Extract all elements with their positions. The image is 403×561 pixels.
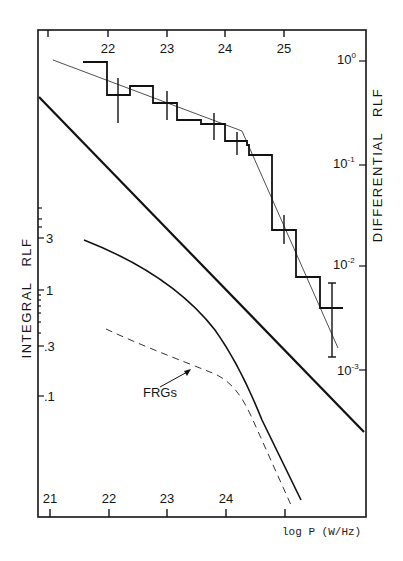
bottom-tick-23: 23 [160,491,174,506]
left-tick-0.3: .3 [44,339,55,354]
plot-frame [38,30,366,517]
bottom-tick-22: 22 [102,491,116,506]
top-axis-ticks [48,30,284,37]
bottom-tick-24: 24 [219,491,233,506]
integral-rlf-curve [84,240,301,500]
top-tick-23: 23 [160,41,174,56]
left-axis-ticks [38,208,44,396]
top-tick-22: 22 [101,41,115,56]
error-bars [118,78,336,357]
right-tick-1e0: 100 [337,51,356,67]
right-axis-title: DIFFERENTIAL RLF [370,88,385,242]
integral-powerlaw-line [39,97,364,432]
frgs-dashed-curve [106,329,291,505]
bottom-axis-ticks [50,509,285,517]
right-tick-1e-1: 10-1 [333,155,355,171]
top-tick-25: 25 [277,41,291,56]
top-tick-24: 24 [218,41,232,56]
right-axis-ticks [359,61,366,370]
right-tick-1e-2: 10-2 [333,256,355,272]
left-axis-labels: 3 1 .3 .1 [44,231,55,404]
left-tick-1: 1 [46,283,53,298]
right-tick-1e-3: 10-3 [337,362,359,378]
left-axis-title: INTEGRAL RLF [19,238,34,359]
right-axis-labels: 100 10-1 10-2 10-3 [333,51,359,378]
top-axis-labels: 22 23 24 25 [101,41,291,56]
bottom-tick-21: 21 [43,491,57,506]
differential-fit-line [53,60,338,348]
left-tick-3: 3 [46,231,53,246]
left-tick-0.1: .1 [44,389,55,404]
radio-luminosity-function-chart: 22 23 24 25 21 22 23 24 log P (W/Hz) 3 1 [0,0,403,561]
x-axis-title: log P (W/Hz) [282,526,361,538]
bottom-axis-labels: 21 22 23 24 [43,491,233,506]
